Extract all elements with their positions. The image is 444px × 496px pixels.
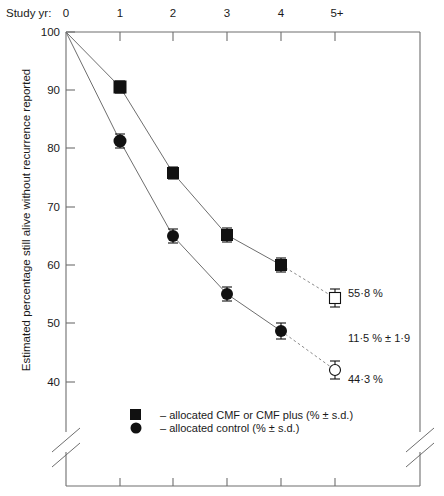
datapoint-control-yr5plus <box>330 365 341 376</box>
datapoint-control-yr2 <box>167 230 179 242</box>
datapoint-cmf-yr2 <box>167 167 179 179</box>
xtick-label-5plus: 5+ <box>330 7 343 19</box>
annotation-control-final: 44·3 % <box>348 373 383 385</box>
datapoint-cmf-yr5plus <box>330 293 341 304</box>
ytick-label-100: 100 <box>41 26 60 38</box>
ytick-label-50: 50 <box>47 317 60 329</box>
legend-label-cmf: – allocated CMF or CMF plus (% ± s.d.) <box>160 409 353 421</box>
series-cmf-error-bars <box>115 81 340 307</box>
ytick-label-40: 40 <box>47 376 60 388</box>
datapoint-cmf-yr1 <box>114 81 127 94</box>
ytick-label-80: 80 <box>47 142 60 154</box>
xtick-label-4: 4 <box>278 7 285 19</box>
legend-label-control: – allocated control (% ± s.d.) <box>160 422 299 434</box>
annotation-difference: 11·5 % ± 1·9 <box>348 332 410 344</box>
legend: – allocated CMF or CMF plus (% ± s.d.) –… <box>130 409 353 434</box>
xtick-label-1: 1 <box>117 7 123 19</box>
series-control-dashed-segment <box>281 331 335 370</box>
series-control-error-bars <box>115 134 340 379</box>
series-cmf <box>66 32 341 307</box>
legend-marker-filled-circle <box>131 423 142 434</box>
xtick-label-3: 3 <box>224 7 230 19</box>
series-control-line <box>66 32 281 331</box>
series-control <box>66 32 341 379</box>
xtick-label-2: 2 <box>170 7 176 19</box>
bottom-tick-marks <box>120 478 335 486</box>
annotation-cmf-final: 55·8 % <box>348 287 383 299</box>
datapoint-control-yr4 <box>275 325 287 337</box>
survival-chart: Study yr: 0 1 2 3 4 5+ <box>0 0 444 496</box>
datapoint-control-yr3 <box>221 288 233 300</box>
y-axis-title: Estimated percentage still alive without… <box>20 69 32 371</box>
datapoint-control-yr1 <box>114 135 127 148</box>
xtick-label-0: 0 <box>63 7 69 19</box>
ytick-label-70: 70 <box>47 201 60 213</box>
y-tick-marks <box>66 32 75 382</box>
datapoint-cmf-yr4 <box>275 259 287 271</box>
datapoint-cmf-yr3 <box>221 229 233 241</box>
top-tick-marks <box>120 32 335 41</box>
ytick-label-60: 60 <box>47 259 60 271</box>
study-year-label: Study yr: <box>6 7 51 19</box>
series-cmf-dashed-segment <box>281 265 335 298</box>
ytick-label-90: 90 <box>47 84 60 96</box>
legend-marker-filled-square <box>130 409 141 420</box>
